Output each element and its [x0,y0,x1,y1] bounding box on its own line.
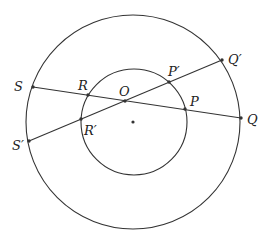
point-p [183,107,186,110]
label-q-prime: Q′ [228,52,242,67]
point-r [86,93,89,96]
chords-group [29,60,241,141]
point-r-prime [79,117,82,120]
point-q-prime [220,58,223,61]
label-s-prime: S′ [12,138,24,153]
label-p-prime: P′ [167,64,180,79]
label-r-prime: R′ [83,123,97,138]
points-group [27,58,242,142]
point-s [31,85,34,88]
point-o [123,99,126,102]
point-q [239,116,242,119]
label-q: Q [247,112,258,127]
label-p: P [189,94,199,109]
chord-sq [33,87,241,118]
label-s: S [14,79,23,94]
label-o: O [119,84,130,99]
point-s-prime [27,139,30,142]
label-r: R [77,78,88,93]
center-point [131,120,134,123]
point-p-prime [167,80,170,83]
concentric-circles-diagram: SROPQS′R′P′Q′ [0,0,267,239]
